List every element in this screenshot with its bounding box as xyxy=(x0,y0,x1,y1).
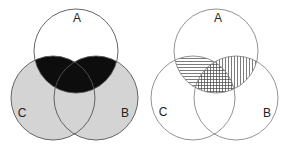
label-a: A xyxy=(214,11,222,25)
venn-diagram-hatched: A C B xyxy=(146,0,292,147)
label-b: B xyxy=(121,106,129,120)
venn-hatched-svg: A C B xyxy=(146,0,292,147)
label-b: B xyxy=(263,106,271,120)
venn-diagram-shaded: A C B xyxy=(0,0,146,147)
label-a: A xyxy=(73,11,81,25)
label-c: C xyxy=(18,106,27,120)
label-c: C xyxy=(159,105,168,119)
region-a-intersect-b xyxy=(194,56,278,140)
venn-shaded-svg: A C B xyxy=(0,0,146,147)
